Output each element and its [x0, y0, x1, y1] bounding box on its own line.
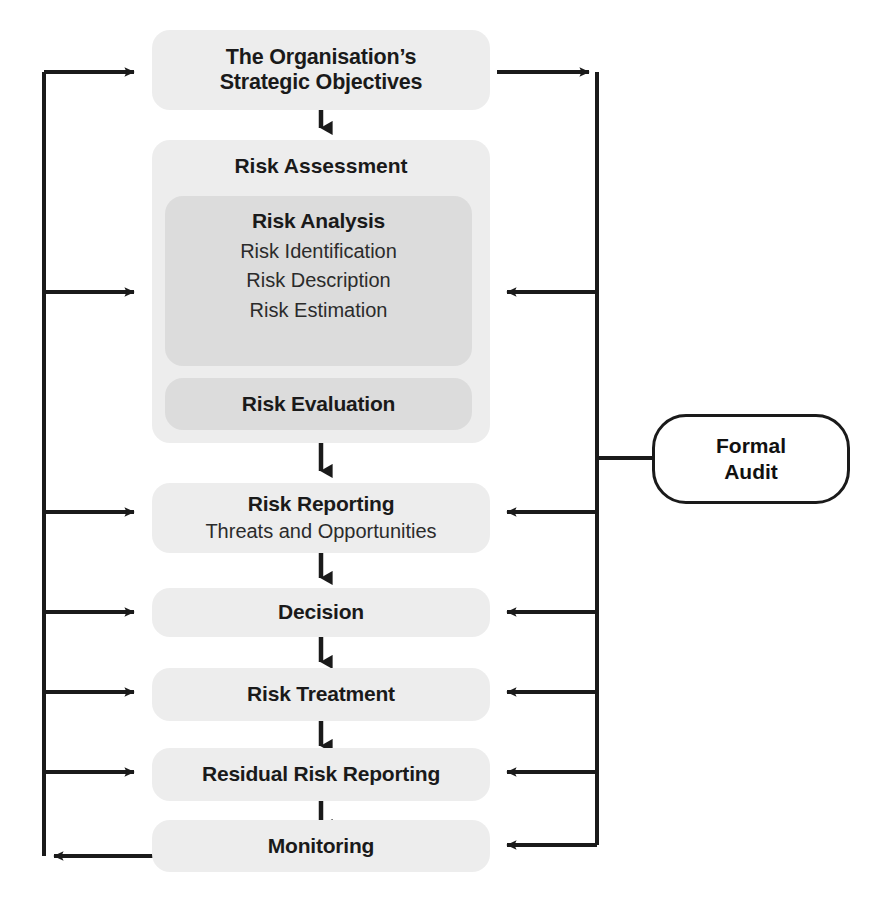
node-strategic-objectives[interactable]: The Organisation’s Strategic Objectives	[152, 30, 490, 110]
right-feedback-spine	[497, 72, 654, 845]
node-monitoring[interactable]: Monitoring	[152, 820, 490, 872]
strategic-objectives-line1: The Organisation’s	[226, 45, 416, 70]
risk-assessment-label: Risk Assessment	[152, 154, 490, 178]
residual-risk-reporting-label: Residual Risk Reporting	[202, 762, 440, 787]
formal-audit-line1: Formal	[716, 433, 786, 459]
risk-evaluation-label: Risk Evaluation	[242, 392, 395, 417]
risk-reporting-subtitle: Threats and Opportunities	[205, 519, 436, 545]
risk-analysis-item-description: Risk Description	[246, 268, 390, 294]
decision-label: Decision	[278, 600, 364, 625]
risk-reporting-label: Risk Reporting	[248, 492, 395, 517]
node-residual-risk-reporting[interactable]: Residual Risk Reporting	[152, 748, 490, 801]
node-decision[interactable]: Decision	[152, 588, 490, 637]
node-risk-evaluation[interactable]: Risk Evaluation	[165, 378, 472, 430]
risk-management-diagram: The Organisation’s Strategic Objectives …	[0, 0, 884, 908]
risk-analysis-item-identification: Risk Identification	[240, 239, 397, 265]
formal-audit-line2: Audit	[716, 459, 786, 485]
node-risk-treatment[interactable]: Risk Treatment	[152, 668, 490, 721]
monitoring-label: Monitoring	[268, 834, 374, 859]
node-risk-reporting[interactable]: Risk Reporting Threats and Opportunities	[152, 483, 490, 553]
risk-analysis-item-estimation: Risk Estimation	[250, 298, 388, 324]
node-risk-analysis[interactable]: Risk Analysis Risk Identification Risk D…	[165, 196, 472, 366]
strategic-objectives-line2: Strategic Objectives	[220, 70, 423, 95]
node-formal-audit[interactable]: Formal Audit	[652, 414, 850, 504]
risk-treatment-label: Risk Treatment	[247, 682, 395, 707]
risk-analysis-label: Risk Analysis	[252, 209, 385, 234]
